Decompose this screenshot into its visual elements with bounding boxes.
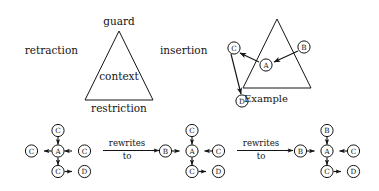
g2-node-left: B	[159, 145, 171, 157]
rewrite-arrow-2: rewrites to	[237, 138, 293, 161]
example-caption: Example	[244, 93, 288, 104]
triangle-left-side-label: retraction	[25, 44, 79, 56]
g2-node-bottom-right-label: D	[216, 167, 222, 176]
g2-node-top-label: C	[189, 126, 195, 135]
g1-node-bottom-right: D	[78, 165, 90, 177]
g1-node-bottom-right-label: D	[82, 167, 88, 176]
g2-node-bottom-right: D	[212, 165, 224, 177]
g3-node-bottom-right: D	[347, 165, 359, 177]
example-edge-c-to-d	[231, 54, 241, 94]
g3-node-left-label: B	[298, 147, 303, 156]
example-node-a-label: A	[262, 61, 269, 70]
example-node-a: A	[260, 59, 272, 71]
g2-node-right-label: C	[216, 147, 222, 156]
rewrite-arrow-2-line1: rewrites	[243, 138, 279, 148]
example-graph-over-triangle: C B A D Example	[228, 19, 311, 107]
rewrite-arrow-1-line2: to	[123, 151, 132, 161]
triangle-outline	[85, 31, 153, 100]
example-node-b: B	[298, 41, 310, 53]
g2-node-right: C	[212, 145, 224, 157]
g3-node-top-label: B	[324, 126, 329, 135]
g3-node-right-label: C	[351, 147, 357, 156]
g1-node-bottom-label: C	[55, 167, 61, 176]
g2-node-center: A	[186, 145, 198, 157]
figure-canvas: guard retraction insertion context restr…	[0, 0, 379, 191]
g3-node-center-label: A	[323, 147, 330, 156]
g1-node-right: C	[78, 145, 90, 157]
rewrite-graph-2: C B A C C D	[159, 124, 224, 177]
example-node-c-label: C	[231, 44, 237, 53]
g3-node-bottom-label: C	[324, 167, 330, 176]
g1-node-top: C	[52, 124, 64, 136]
rewrite-arrow-1: rewrites to	[103, 138, 159, 161]
example-edge-b-to-a	[274, 51, 298, 62]
rewrite-arrow-1-line1: rewrites	[109, 138, 145, 148]
g3-node-bottom-right-label: D	[351, 167, 357, 176]
triangle-interior-label: context	[99, 70, 139, 82]
g3-node-center: A	[321, 145, 333, 157]
g2-node-bottom-label: C	[189, 167, 195, 176]
example-edge-a-to-c	[240, 53, 259, 62]
g3-node-bottom: C	[321, 165, 333, 177]
triangle-base-label: restriction	[91, 102, 147, 114]
g1-node-center-label: A	[54, 147, 61, 156]
g3-node-left: B	[294, 145, 306, 157]
example-triangle-outline	[243, 19, 311, 88]
rewrite-arrow-2-line2: to	[257, 151, 266, 161]
example-node-c: C	[228, 42, 240, 54]
rewrite-graph-1: C C A C C D	[25, 124, 90, 177]
triangle-right-side-label: insertion	[160, 44, 208, 56]
g2-node-top: C	[186, 124, 198, 136]
g2-node-left-label: B	[163, 147, 168, 156]
g3-node-top: B	[321, 124, 333, 136]
triangle-apex-label: guard	[103, 15, 135, 27]
g1-node-left-label: C	[29, 147, 35, 156]
g1-node-center: A	[52, 145, 64, 157]
g3-node-right: C	[347, 145, 359, 157]
g1-node-right-label: C	[82, 147, 88, 156]
g2-node-bottom: C	[186, 165, 198, 177]
g1-node-left: C	[25, 145, 37, 157]
rewrite-graph-3: B B A C C D	[294, 124, 359, 177]
g2-node-center-label: A	[188, 147, 195, 156]
example-node-b-label: B	[301, 43, 306, 52]
guard-context-triangle: guard retraction insertion context restr…	[25, 15, 208, 114]
g1-node-bottom: C	[52, 165, 64, 177]
g1-node-top-label: C	[55, 126, 61, 135]
